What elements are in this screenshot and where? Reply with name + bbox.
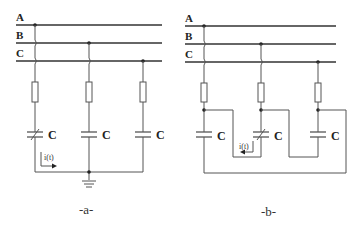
capacitor-label-a: C xyxy=(48,128,57,142)
capacitor-label-2: C xyxy=(274,129,283,143)
bus-label-c: C xyxy=(185,48,193,60)
bus-label-a: A xyxy=(16,11,24,23)
drop-a xyxy=(35,25,37,82)
fuse-b xyxy=(258,83,264,102)
capacitor-label-3: C xyxy=(331,129,340,143)
capacitor-label-b: C xyxy=(102,128,111,142)
fuse-a xyxy=(32,82,38,102)
fuse-a xyxy=(201,83,207,102)
current-label-b: i(t) xyxy=(239,142,249,151)
bus-label-c: C xyxy=(16,47,24,59)
ground-icon xyxy=(82,181,96,187)
fuse-c xyxy=(315,83,321,102)
capacitor-label-1: C xyxy=(217,129,226,143)
bus-label-b: B xyxy=(185,30,193,42)
figure-a: A B C C C C xyxy=(16,11,165,217)
caption-b: -b- xyxy=(261,204,276,219)
bus-label-b: B xyxy=(16,29,24,41)
fuse-c xyxy=(140,82,146,102)
capacitor-label-c: C xyxy=(156,128,165,142)
fuse-b xyxy=(86,82,92,102)
circuit-diagram: A B C C C C xyxy=(0,0,362,227)
star-point-dot xyxy=(87,170,91,174)
bus-label-a: A xyxy=(185,12,193,24)
current-label-a: i(t) xyxy=(44,153,54,162)
figure-b: A B C C C C xyxy=(185,12,346,219)
caption-a: -a- xyxy=(79,202,93,217)
